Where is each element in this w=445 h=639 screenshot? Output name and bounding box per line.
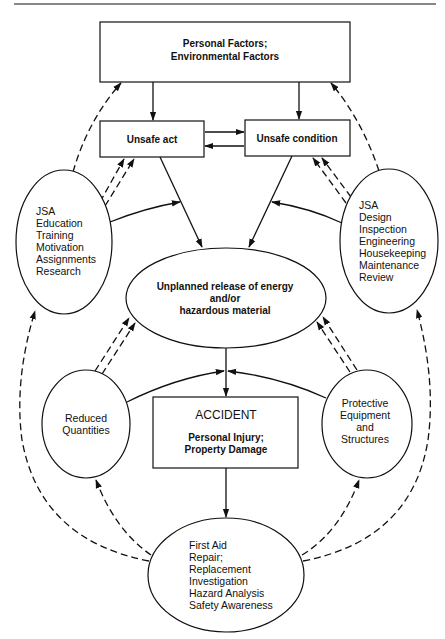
node-accident: ACCIDENT Personal Injury; Property Damag… bbox=[153, 397, 298, 468]
node-protective-equipment: Protective Equipment and Structures bbox=[322, 370, 412, 478]
factors-line-2: Environmental Factors bbox=[171, 51, 280, 62]
node-reduced-quantities: Reduced Quantities bbox=[42, 370, 130, 478]
response-line-6: Safety Awareness bbox=[189, 599, 273, 611]
protective-line-4: Structures bbox=[341, 433, 389, 445]
release-line-2: and/or bbox=[210, 293, 241, 304]
node-response: First Aid Repair; Replacement Investigat… bbox=[148, 518, 304, 632]
left-controls-line-1: JSA bbox=[36, 205, 55, 217]
release-line-1: Unplanned release of energy bbox=[157, 281, 294, 292]
node-factors: Personal Factors; Environmental Factors bbox=[100, 22, 350, 82]
edge-reduced-to-release-a bbox=[95, 318, 129, 371]
edge-act-to-release bbox=[160, 157, 202, 247]
accident-title: ACCIDENT bbox=[195, 408, 257, 422]
node-left-controls: JSA Education Training Motivation Assign… bbox=[16, 170, 112, 314]
left-controls-line-4: Motivation bbox=[36, 241, 84, 253]
protective-line-3: and bbox=[356, 421, 374, 433]
protective-line-2: Equipment bbox=[340, 409, 390, 421]
unsafe-condition-label: Unsafe condition bbox=[256, 133, 337, 144]
response-line-2: Repair; bbox=[189, 551, 223, 563]
accident-line-1: Personal Injury; bbox=[188, 432, 264, 443]
right-controls-line-7: Review bbox=[359, 271, 394, 283]
reduced-line-2: Quantities bbox=[62, 424, 109, 436]
right-controls-line-1: JSA bbox=[359, 199, 378, 211]
node-right-controls: JSA Design Inspection Engineering Housek… bbox=[340, 169, 438, 313]
accident-causation-diagram: Personal Factors; Environmental Factors … bbox=[0, 0, 445, 639]
edge-condition-to-release bbox=[249, 156, 292, 247]
node-release: Unplanned release of energy and/or hazar… bbox=[126, 248, 326, 348]
accident-line-2: Property Damage bbox=[185, 444, 268, 455]
edge-response-to-protective bbox=[302, 480, 359, 555]
right-controls-line-3: Inspection bbox=[359, 223, 407, 235]
protective-line-1: Protective bbox=[342, 397, 389, 409]
response-line-4: Investigation bbox=[189, 575, 248, 587]
unsafe-act-label: Unsafe act bbox=[127, 134, 178, 145]
left-controls-line-6: Research bbox=[36, 265, 81, 277]
response-line-3: Replacement bbox=[189, 563, 251, 575]
edge-right-controls-to-unsafe-condition-b bbox=[322, 158, 351, 197]
edge-right-controls-to-condition-link bbox=[272, 202, 342, 223]
left-controls-line-5: Assignments bbox=[36, 253, 96, 265]
edge-reduced-to-release-b bbox=[102, 323, 135, 374]
response-line-5: Hazard Analysis bbox=[189, 587, 264, 599]
right-controls-line-6: Maintenance bbox=[359, 259, 419, 271]
right-controls-line-4: Engineering bbox=[359, 235, 415, 247]
edge-right-controls-to-unsafe-condition-a bbox=[313, 158, 346, 203]
left-controls-line-2: Education bbox=[36, 217, 83, 229]
edge-protective-to-release-accident-link bbox=[228, 371, 326, 398]
right-controls-line-5: Housekeeping bbox=[359, 247, 426, 259]
edge-protective-to-release-b bbox=[323, 317, 357, 370]
reduced-line-1: Reduced bbox=[65, 412, 107, 424]
response-line-1: First Aid bbox=[189, 539, 227, 551]
release-line-3: hazardous material bbox=[179, 305, 270, 316]
edge-protective-to-release-a bbox=[317, 322, 350, 372]
edge-left-controls-to-act-link bbox=[110, 202, 180, 222]
right-controls-line-2: Design bbox=[359, 211, 392, 223]
edge-left-controls-to-unsafe-act-b bbox=[105, 159, 134, 206]
node-unsafe-act: Unsafe act bbox=[100, 121, 204, 157]
edge-response-to-reduced bbox=[96, 480, 151, 555]
left-controls-line-3: Training bbox=[36, 229, 74, 241]
node-unsafe-condition: Unsafe condition bbox=[245, 120, 350, 156]
factors-line-1: Personal Factors; bbox=[183, 38, 267, 49]
